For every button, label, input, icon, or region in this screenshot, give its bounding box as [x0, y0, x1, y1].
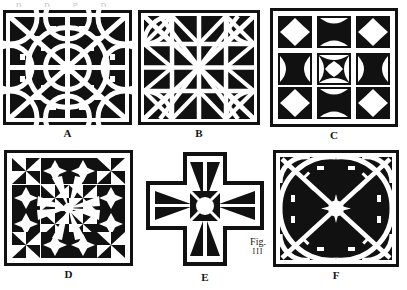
figure-caption-line-1: Fig. — [238, 236, 278, 247]
pattern-panel-b: B — [138, 10, 260, 139]
panel-d-label: D — [4, 268, 133, 280]
pattern-f-artwork — [273, 150, 399, 267]
pattern-panel-c: C — [270, 8, 398, 140]
panel-a-label: A — [3, 127, 132, 139]
pattern-c-artwork — [270, 8, 398, 127]
pattern-a-artwork — [3, 10, 132, 125]
pattern-b-artwork — [138, 10, 260, 125]
pattern-panel-d: D — [4, 150, 133, 280]
figure-caption: Fig. III — [238, 236, 278, 257]
figure-caption-line-2: III — [238, 247, 278, 257]
pattern-d-artwork — [4, 150, 133, 266]
pattern-panel-a: A — [3, 10, 132, 139]
pattern-panel-f: F — [273, 150, 399, 281]
panel-b-label: B — [138, 127, 260, 139]
panel-e-label: E — [146, 271, 264, 283]
pattern-panel-e: E — [146, 152, 264, 284]
panel-f-label: F — [273, 269, 399, 281]
panel-c-label: C — [270, 129, 398, 141]
page-top-text-sliver: p p g p — [0, 0, 407, 7]
